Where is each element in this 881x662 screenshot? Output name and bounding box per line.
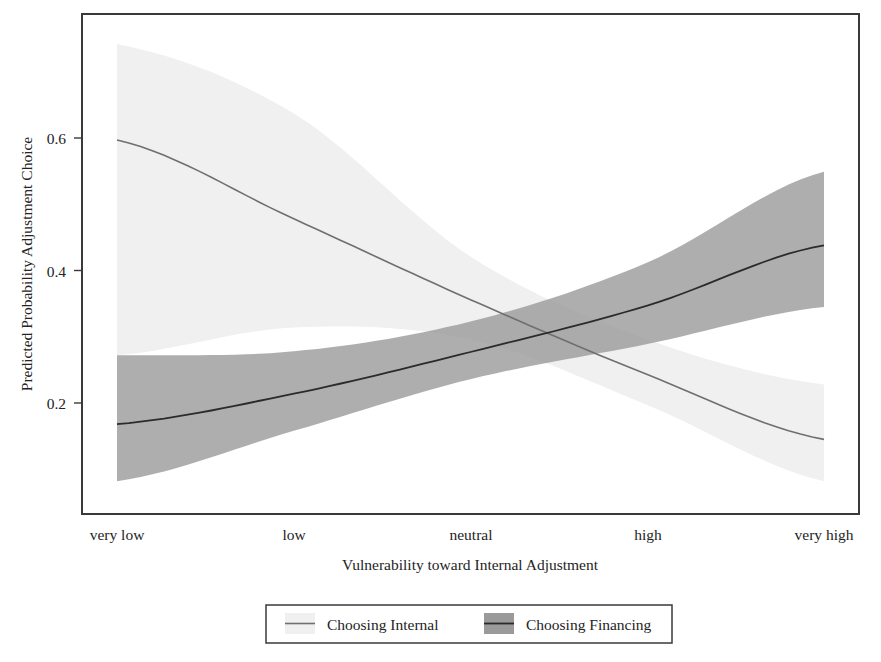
x-axis-title: Vulnerability toward Internal Adjustment bbox=[342, 556, 599, 573]
y-tick-label-0-2: 0.2 bbox=[47, 395, 66, 412]
series-bands-accurate bbox=[82, 14, 859, 514]
x-tick-label-low: low bbox=[282, 526, 306, 543]
legend-label-internal: Choosing Internal bbox=[327, 616, 439, 633]
y-tick-label-0-6: 0.6 bbox=[47, 130, 67, 147]
legend-entry-choosing-financing[interactable]: Choosing Financing bbox=[484, 613, 652, 634]
prediction-plot-figure: 0.6 0.4 0.2 very low low neutral high ve… bbox=[0, 0, 881, 662]
legend-entry-choosing-internal[interactable]: Choosing Internal bbox=[285, 613, 439, 634]
legend-label-financing: Choosing Financing bbox=[526, 616, 652, 633]
x-tick-label-neutral: neutral bbox=[449, 526, 492, 543]
y-axis-title: Predicted Probability Adjustment Choice bbox=[18, 137, 35, 392]
x-tick-label-high: high bbox=[634, 526, 662, 543]
y-tick-label-0-4: 0.4 bbox=[47, 263, 67, 280]
x-tick-label-very-low: very low bbox=[90, 526, 145, 543]
x-tick-label-very-high: very high bbox=[795, 526, 854, 543]
chart-legend: Choosing Internal Choosing Financing bbox=[266, 605, 672, 643]
